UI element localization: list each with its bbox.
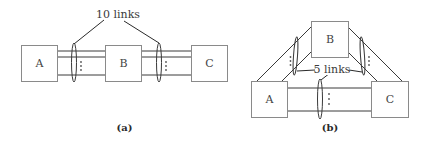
diagram-a: A B C 10 links (a) <box>22 8 228 133</box>
node-a: A <box>252 82 288 118</box>
node-b: B <box>312 22 349 58</box>
svg-text:C: C <box>205 57 213 70</box>
network-diagrams: A B C 10 links (a) <box>0 0 429 141</box>
link-bundle-a-b <box>57 43 105 82</box>
links-annotation: 10 links <box>74 8 159 44</box>
svg-text:B: B <box>326 33 334 46</box>
bundle-ellipse <box>72 43 77 82</box>
bundle-ellipse <box>318 79 323 119</box>
bundle-ellipse <box>292 37 299 75</box>
svg-text:A: A <box>35 57 45 70</box>
annotation-label: 5 links <box>314 63 351 76</box>
link-bundle-a-b <box>257 27 311 81</box>
svg-text:C: C <box>386 93 394 106</box>
link-bundle-b-c <box>348 27 402 81</box>
annotation-label: 10 links <box>96 8 140 21</box>
link-bundle-a-c <box>287 79 371 119</box>
bundle-ellipse <box>157 43 162 82</box>
node-b: B <box>106 46 142 82</box>
bundle-ellipse <box>359 37 366 75</box>
diagram-b: B A C 5 links (b) <box>252 22 409 134</box>
svg-text:A: A <box>265 93 275 106</box>
link-bundle-b-c <box>141 43 191 82</box>
node-c: C <box>372 82 409 118</box>
links-annotation: 5 links <box>297 62 362 80</box>
caption-b: (b) <box>322 122 338 133</box>
svg-text:B: B <box>119 57 127 70</box>
caption-a: (a) <box>117 122 133 133</box>
node-c: C <box>192 46 228 82</box>
node-a: A <box>22 46 58 82</box>
